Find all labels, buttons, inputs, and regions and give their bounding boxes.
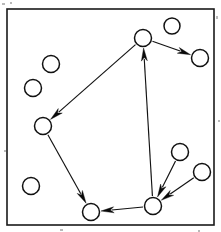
diagram-border: [7, 9, 214, 225]
node-right-middle: [172, 144, 189, 161]
node-bottom-hub: [145, 198, 162, 215]
scan-speck-1: [2, 3, 5, 5]
node-left-middle: [35, 118, 52, 135]
node-left-lower: [23, 178, 40, 195]
node-top-center: [135, 30, 152, 47]
scan-speck-6: [60, 229, 63, 231]
node-left-upper: [43, 56, 60, 73]
node-left-outer: [25, 80, 42, 97]
graph-canvas: [0, 0, 221, 232]
scan-speck-2: [10, 2, 12, 4]
node-top-right-upper: [164, 18, 180, 34]
scan-speck-5: [218, 120, 220, 122]
scan-speck-7: [198, 230, 200, 232]
directed-graph-figure: [0, 0, 221, 232]
node-bottom-left: [83, 204, 100, 221]
node-right-lower: [194, 164, 211, 181]
node-right-upper: [192, 50, 209, 67]
scan-speck-4: [4, 150, 6, 152]
scan-speck-3: [216, 16, 218, 19]
